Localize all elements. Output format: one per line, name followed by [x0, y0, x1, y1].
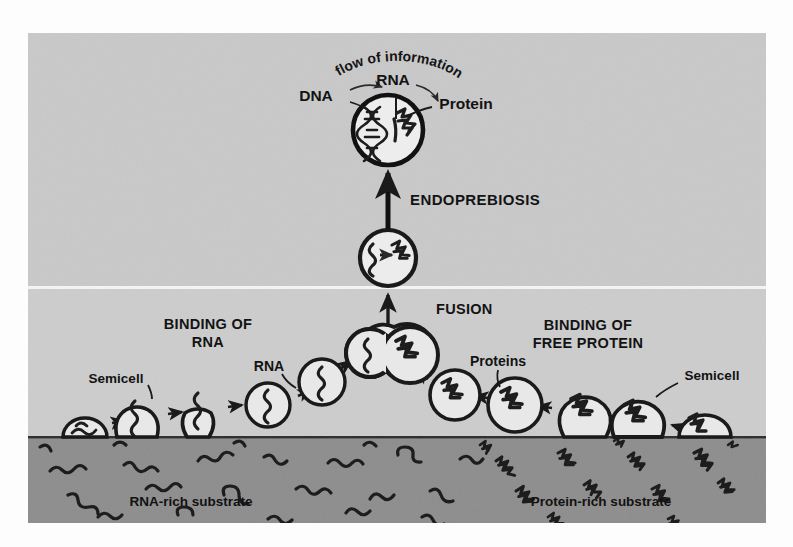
page-root: RNA-rich substrate [0, 0, 793, 547]
endoprebiosis-label: ENDOPREBIOSIS [410, 191, 540, 208]
binding-of-rna-label-line1: BINDING OF [164, 316, 252, 332]
semicell-left-label: Semicell [89, 371, 144, 386]
binding-of-rna-label-line2: RNA [192, 334, 225, 350]
cell-rna-free-2 [299, 359, 345, 405]
fusion-label: FUSION [436, 301, 493, 317]
binding-of-free-protein-label-line1: BINDING OF [544, 317, 632, 333]
nucleated-cell [353, 95, 423, 165]
cell-rna-free-1 [246, 383, 290, 427]
dna-label: DNA [299, 87, 333, 104]
cell-protein-free-2 [488, 378, 542, 432]
protein-top-label: Protein [439, 95, 492, 112]
rna-callout-label: RNA [254, 358, 284, 374]
semicell-right-label: Semicell [685, 368, 740, 383]
fused-cell [360, 230, 416, 286]
protein-rich-substrate-caption: Protein-rich substrate [531, 494, 672, 509]
diagram-svg: RNA-rich substrate [28, 33, 766, 523]
proteins-callout-label: Proteins [470, 353, 526, 369]
rna-top-label: RNA [376, 71, 410, 88]
binding-of-free-protein-label-line2: FREE PROTEIN [533, 335, 644, 351]
rna-rich-substrate-caption: RNA-rich substrate [129, 494, 253, 509]
diagram-figure: RNA-rich substrate [28, 33, 766, 523]
cell-protein-free-1 [430, 370, 480, 420]
fusion-cell-pair [346, 324, 438, 383]
semicell-protein-budding-2 [612, 401, 665, 437]
